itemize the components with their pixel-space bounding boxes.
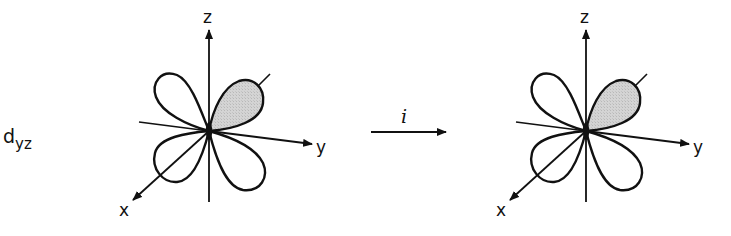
- operation-symbol: i: [401, 105, 407, 127]
- orbital-label-subscript: yz: [15, 135, 32, 153]
- dyz-orbital-shape: [133, 30, 312, 202]
- y-axis-label-after: y: [693, 137, 703, 157]
- x-axis-label-after: x: [496, 200, 506, 220]
- orbital-label: d yz: [3, 125, 32, 153]
- z-axis-label-after: z: [580, 7, 589, 27]
- y-axis-label-before: y: [316, 137, 326, 157]
- z-axis-label-before: z: [203, 7, 212, 27]
- orbital-after: [510, 30, 689, 202]
- orbital-label-main: d: [3, 125, 15, 147]
- x-axis-label-before: x: [119, 200, 129, 220]
- orbital-before: [133, 30, 312, 202]
- orbital-diagram-canvas: d yz z y x i z y x: [0, 0, 731, 236]
- dyz-orbital-shape: [510, 30, 689, 202]
- inversion-arrow: i: [371, 105, 446, 132]
